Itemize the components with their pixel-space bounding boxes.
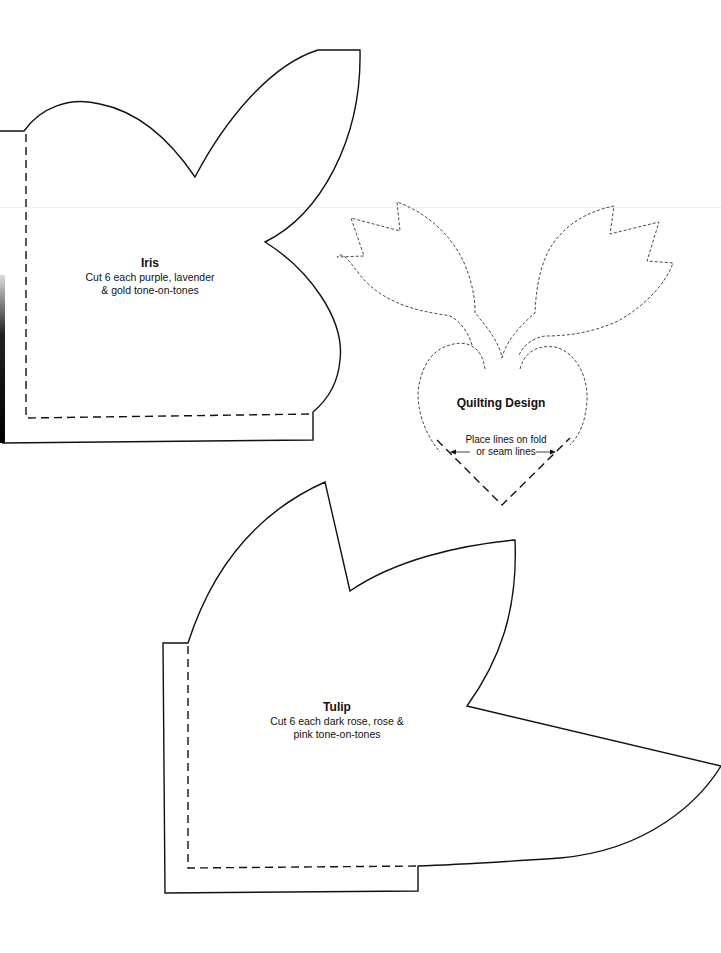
- tulip-cut-line: [163, 482, 721, 893]
- tulip-description-line2: pink tone-on-tones: [262, 728, 412, 741]
- quilting-design-title: Quilting Design: [418, 396, 584, 411]
- fold-note-line1: Place lines on fold: [436, 434, 576, 446]
- tulip-piece: [163, 482, 721, 893]
- quilting-design-label: Quilting Design: [418, 396, 584, 411]
- iris-description-line1: Cut 6 each purple, lavender: [80, 271, 220, 284]
- pattern-page: Iris Cut 6 each purple, lavender & gold …: [0, 0, 721, 953]
- iris-title: Iris: [80, 256, 220, 271]
- quilting-right-tulip: [502, 206, 673, 358]
- fold-note-line2: or seam lines: [436, 446, 576, 458]
- tulip-seam-line: [188, 646, 418, 868]
- iris-cut-line: [0, 50, 360, 443]
- fold-note: Place lines on fold or seam lines: [436, 434, 576, 457]
- iris-description-line2: & gold tone-on-tones: [80, 284, 220, 297]
- quilting-design: [337, 202, 673, 505]
- iris-piece: [0, 50, 360, 443]
- pattern-shapes: [0, 0, 721, 953]
- iris-label: Iris Cut 6 each purple, lavender & gold …: [80, 256, 220, 297]
- tulip-label: Tulip Cut 6 each dark rose, rose & pink …: [262, 700, 412, 741]
- quilting-left-tulip: [337, 202, 502, 358]
- tulip-description-line1: Cut 6 each dark rose, rose &: [262, 715, 412, 728]
- tulip-title: Tulip: [262, 700, 412, 715]
